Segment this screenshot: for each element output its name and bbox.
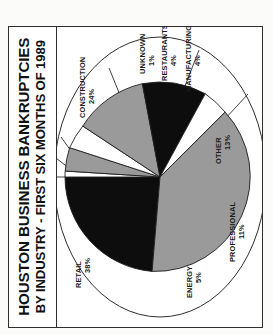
svg-text:MANUFACTURING: MANUFACTURING [184,26,193,92]
svg-text:CONSTRUCTION: CONSTRUCTION [78,57,87,118]
page-subtitle: BY INDUSTRY - FIRST SIX MONTHS OF 1989 [33,38,48,316]
svg-text:4%: 4% [169,55,178,66]
svg-text:OTHER: OTHER [214,137,223,164]
slice-label-retail: RETAIL 38% [74,257,92,288]
slice-label-construction: CONSTRUCTION 24% [78,57,96,118]
svg-text:5%: 5% [194,272,203,283]
svg-text:RESTAURANTS: RESTAURANTS [160,26,169,81]
svg-text:PROFESSIONAL: PROFESSIONAL [228,202,237,262]
slice-label-restaurants: RESTAURANTS 4% [160,26,178,81]
svg-text:11%: 11% [237,224,246,239]
page-title: HOUSTON BUSINESS BANKRUPTCIES [15,38,32,316]
svg-text:24%: 24% [87,88,96,104]
chart-title-rotated: HOUSTON BUSINESS BANKRUPTCIES BY INDUSTR… [15,38,48,316]
svg-text:UNKNOWN: UNKNOWN [138,34,147,74]
pie-chart-plot-area: CONSTRUCTION 24% UNKNOWN 1% RESTAURANTS … [57,26,263,328]
slice-label-energy: ENERGY 5% [185,266,203,298]
slice-label-manufacturing: MANUFACTURING 4% [184,26,202,92]
chart-title-panel: HOUSTON BUSINESS BANKRUPTCIES BY INDUSTR… [8,26,56,328]
svg-text:ENERGY: ENERGY [185,266,194,298]
pie-slices [65,82,250,271]
svg-text:4%: 4% [193,55,202,66]
slice-label-unknown: UNKNOWN 1% [138,34,156,74]
svg-text:38%: 38% [83,257,92,273]
svg-text:RETAIL: RETAIL [74,261,83,288]
pie-chart-svg: CONSTRUCTION 24% UNKNOWN 1% RESTAURANTS … [57,26,263,328]
pie-slice-construction[interactable] [65,177,160,271]
svg-text:13%: 13% [223,134,232,150]
svg-text:1%: 1% [147,55,156,66]
